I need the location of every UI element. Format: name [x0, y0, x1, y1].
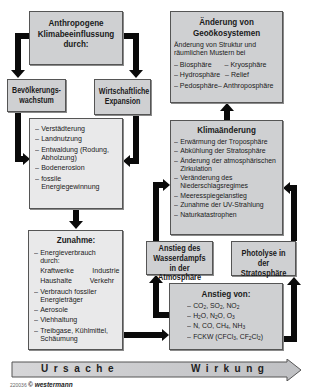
anthropogenic-influence-box: Anthropogene Klimabeeinflussung durch: [29, 11, 123, 65]
list-item: Abkühlung der Stratosphäre [174, 147, 266, 154]
list-item: – Pedosphäre – Anthroposphäre [174, 82, 266, 90]
anstieg-title: Anstieg von: [180, 289, 271, 300]
list-item: Bodenerosion [35, 164, 108, 172]
arrow-down-icon [129, 70, 143, 78]
gas-increase-box: Anstieg von: CO2, SO2, NO2 H2O, N2O, O3 … [169, 283, 283, 350]
arrow-right-icon [163, 179, 170, 191]
credit: 220036 © westermann [10, 381, 73, 388]
list-item: Viehhaltung [34, 316, 108, 324]
population-growth-box: Bevölkerungs- wachstum [7, 79, 66, 112]
zunahme-list: Energieverbrauch durch: KraftwerkeIndust… [34, 249, 108, 343]
publisher: © westermann [28, 381, 73, 388]
list-item: KraftwerkeIndustrie [34, 267, 125, 275]
list-item: Erwärmung der Troposphäre [174, 138, 266, 145]
connector-population-to-list [15, 156, 23, 162]
klima-list: Erwärmung der Troposphäre Abkühlung der … [174, 138, 266, 219]
arrow-up-icon [220, 103, 234, 111]
land-use-effects-list: Verstädterung Landnutzung Entwaldung (Ro… [35, 125, 108, 191]
cause-label: Ursache [41, 363, 119, 374]
connector-economy-to-list [133, 115, 139, 164]
zunahme-title: Zunahme: [40, 235, 112, 246]
list-item: N, CO, CH4, NH3 [187, 322, 268, 330]
box-title: Anthropogene Klimabeeinflussung durch: [36, 18, 115, 50]
list-item: Meeresspiegelanstieg [174, 192, 266, 199]
list-item: HaushalteVerkehr [34, 277, 119, 285]
gas-list: CO2, SO2, NO2 H2O, N2O, O3 N, CO, CH4, N… [187, 302, 268, 341]
list-item: FCKW (CFCl3, CF2Cl2) [187, 333, 268, 341]
arrow-left-icon [283, 182, 290, 194]
land-use-effects-box: Verstädterung Landnutzung Entwaldung (Ro… [29, 118, 123, 209]
list-item: – Hydrosphäre – Relief [174, 71, 266, 79]
arrow-down-icon [11, 70, 25, 78]
connector-anstieg-to-photolyse [291, 284, 297, 342]
list-item: – Biosphäre – Kryosphäre [174, 61, 266, 69]
klima-title: Klimaänderung [181, 125, 271, 136]
list-item: Treibgase, Kühlmittel, Schäumung [34, 327, 128, 343]
connector-economy-to-list [129, 158, 139, 164]
list-item: Zunahme der UV-Strahlung [174, 201, 266, 208]
list-item: Energieverbrauch durch: [34, 249, 111, 265]
connector-klima-to-geo [224, 110, 230, 120]
list-item: Verstädterung [35, 125, 108, 133]
figure-code: 220036 [10, 382, 27, 388]
connector-title-to-population [15, 33, 21, 71]
geo-intro: Änderung von Struktur und räumlichen Mus… [174, 41, 278, 58]
list-item: fossile Energiegewinnung [35, 175, 112, 191]
zunahme-box: Zunahme: Energieverbrauch durch: Kraftwe… [28, 230, 123, 350]
list-item: Veränderung des Niederschlagsregimes [174, 174, 268, 189]
water-vapor-box: Anstieg des Wasserdampfs in der Atmosphä… [146, 241, 213, 275]
list-item: Landnutzung [35, 135, 108, 143]
connector-zunahme-to-anstieg [123, 332, 163, 338]
connector-wasserdampf-to-klima [153, 182, 159, 241]
geoecosystem-change-box: Änderung von Geoökosystemen Änderung von… [170, 11, 283, 103]
connector-anstieg-to-wasserdampf [153, 282, 159, 318]
geo-title: Änderung von Geoökosystemen [181, 17, 271, 38]
list-item: Naturkatastrophen [174, 211, 266, 218]
list-item: Aerosole [34, 306, 108, 314]
list-item: CO2, SO2, NO2 [187, 302, 268, 310]
connector-population-to-list [15, 112, 21, 162]
connector-photolyse-to-klima [289, 185, 297, 191]
list-item: H2O, N2O, O3 [187, 312, 268, 320]
effect-label: Wirkung [191, 363, 269, 374]
list-item: Änderung der atmosphärischen Zirkulation [174, 157, 284, 172]
climate-change-box: Klimaänderung Erwärmung der Troposphäre … [170, 120, 283, 235]
connector-title-to-economy [133, 33, 139, 71]
photolysis-box: Photolyse in der Stratosphäre [231, 241, 296, 276]
cause-effect-timeline: Ursache Wirkung [11, 359, 301, 380]
connector-photolyse-to-klima [291, 185, 297, 241]
arrow-right-icon [162, 329, 169, 341]
geo-spheres-list: – Biosphäre – Kryosphäre – Hydrosphäre –… [174, 61, 266, 90]
list-item: Entwaldung (Rodung, Abholzung) [35, 146, 127, 162]
economic-expansion-box: Wirtschaftliche Expansion [94, 79, 151, 115]
arrow-down-icon [69, 221, 83, 229]
list-item: Verbrauch fossiler Energieträger [34, 288, 118, 304]
